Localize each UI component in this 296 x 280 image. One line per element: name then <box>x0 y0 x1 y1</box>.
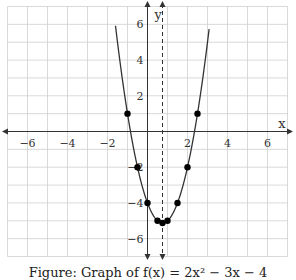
data-point <box>124 110 130 116</box>
x-tick-label: 2 <box>184 137 191 150</box>
y-axis-up-arrow-icon <box>145 1 151 7</box>
x-tick-label: −6 <box>19 137 35 150</box>
x-axis-right-arrow-icon <box>287 129 293 135</box>
data-point <box>164 218 170 224</box>
y-axis-label: y <box>154 7 163 22</box>
data-point <box>174 200 180 206</box>
x-axis-label: x <box>278 116 286 131</box>
y-tick-label: 4 <box>137 54 144 67</box>
y-tick-label: −6 <box>127 233 143 246</box>
tick-labels: −6−4−2246642−2−4−6xy <box>19 7 286 246</box>
y-tick-label: −4 <box>127 197 143 210</box>
figure-caption: Figure: Graph of f(x) = 2x² − 3x − 4 <box>0 265 296 280</box>
data-point <box>194 110 200 116</box>
symmetry-down-arrow-icon <box>160 254 166 260</box>
y-axis-down-arrow-icon <box>145 254 151 260</box>
x-tick-label: 6 <box>264 137 271 150</box>
x-tick-label: −4 <box>59 137 75 150</box>
data-point <box>184 164 190 170</box>
y-tick-label: 6 <box>137 18 144 31</box>
x-axis-left-arrow-icon <box>2 129 8 135</box>
x-tick-label: −2 <box>99 137 115 150</box>
x-tick-label: 4 <box>224 137 231 150</box>
y-tick-label: 2 <box>137 90 144 103</box>
data-point <box>144 200 150 206</box>
data-point <box>134 164 140 170</box>
